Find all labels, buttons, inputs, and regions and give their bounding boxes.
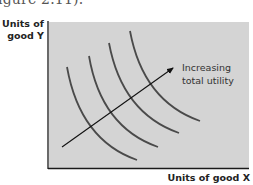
increasing-utility-annotation: Increasing total utility xyxy=(182,61,234,87)
annotation-line2: total utility xyxy=(182,74,234,87)
indifference-map-chart xyxy=(0,0,253,185)
annotation-line1: Increasing xyxy=(182,61,234,74)
plot-area xyxy=(49,22,249,168)
x-axis-label: Units of good X xyxy=(168,172,251,183)
